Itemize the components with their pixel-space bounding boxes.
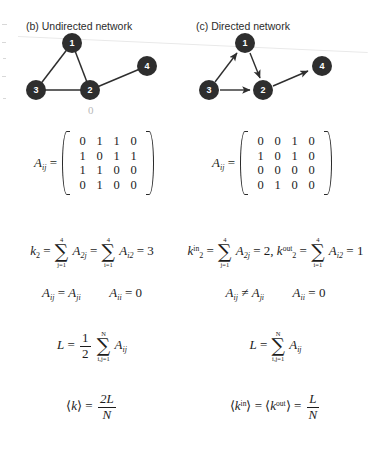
matrix-cell: 0 [286, 178, 303, 193]
undirected-degree-equation: k2 = 4 ∑ j=1 A2j = 4 ∑ i=1 Ai2 = 3 [0, 236, 184, 268]
matrix-cell: 1 [269, 178, 286, 193]
symm-left-sub: ij [50, 293, 54, 302]
avg-equals: = [85, 398, 92, 414]
angle-bracket-close-2: ⟩ [286, 398, 291, 414]
links-term: A [115, 337, 123, 353]
in-degree-eq2: = [253, 243, 260, 259]
matrix-right-bracket [146, 131, 154, 195]
sum-lower-limit: i=1 [102, 261, 115, 268]
summation-ij: N ∑ i,j=1 [97, 330, 110, 362]
fraction-denominator: N [98, 408, 116, 423]
links-term: A [289, 337, 297, 353]
matrix-cell: 1 [286, 134, 303, 149]
matrix-cell: 0 [74, 178, 91, 193]
fraction-numerator: L [307, 392, 320, 408]
matrix-cell: 1 [286, 149, 303, 164]
matrix-equals: = [228, 155, 235, 170]
avg-fraction: 2L N [98, 392, 116, 422]
directed-link-count-equation: L = N ∑ i,j=1 Aij [184, 330, 367, 362]
symm-right-A: A [252, 285, 260, 301]
out-degree-sub: 2 [292, 251, 296, 260]
summation-ij: N ∑ i,j=1 [271, 330, 284, 362]
matrix-cell: 1 [91, 178, 108, 193]
degree-term2: A [119, 243, 127, 259]
out-degree-value: 1 [357, 243, 364, 259]
matrix-cell: 0 [286, 163, 303, 178]
out-degree-term: A [329, 243, 337, 259]
matrix-label-A: A [34, 155, 42, 170]
matrix-cell: 0 [252, 178, 269, 193]
avg-kout-sup: out [276, 399, 286, 408]
matrix-cell: 0 [125, 163, 142, 178]
fraction-numerator: 2L [98, 392, 116, 408]
symm-right-sub: ji [260, 293, 264, 302]
matrix-grid: 0 1 1 0 1 0 1 1 1 1 0 0 0 1 0 0 [70, 131, 146, 195]
links-L: L [57, 337, 64, 353]
arrow-3-to-1 [215, 53, 237, 82]
arrow-1-to-2 [250, 53, 260, 78]
symm-relation: = [58, 285, 65, 301]
out-degree-term-sub: i2 [337, 251, 343, 260]
fraction-denominator: 2 [80, 347, 91, 362]
node-3-label: 3 [206, 85, 211, 95]
avg-eq2: = [294, 398, 301, 414]
sum-lower-limit: i=1 [311, 261, 324, 268]
selfloop-sub: ii [301, 293, 305, 302]
selfloop-value: 0 [319, 285, 326, 301]
symm-right-sub: ji [76, 293, 80, 302]
matrix-left-bracket [240, 131, 248, 195]
summation-j: 4 ∑ j=1 [218, 236, 231, 268]
degree-term2-sub: i2 [127, 251, 133, 260]
sigma-glyph: ∑ [271, 337, 284, 355]
sum-lower-limit: j=1 [55, 261, 68, 268]
degree-eq3: = [137, 243, 144, 259]
directed-asymmetry-equation: Aij ≠ Aji Aii = 0 [184, 285, 367, 302]
symm-left-A: A [42, 285, 50, 301]
degree-eq2: = [90, 243, 97, 259]
matrix-cell: 1 [74, 163, 91, 178]
in-degree-term-sub: 2j [244, 251, 250, 260]
summation-i: 4 ∑ i=1 [102, 236, 115, 268]
scan-artifact-mark [2, 24, 7, 25]
summation-j: 4 ∑ j=1 [55, 236, 68, 268]
selfloop-equals: = [308, 285, 315, 301]
matrix-label: Aij = [212, 155, 235, 172]
matrix-cell: 0 [91, 149, 108, 164]
links-equals: = [68, 337, 75, 353]
matrix-cell: 0 [303, 178, 320, 193]
matrix-cell: 0 [303, 149, 320, 164]
selfloop-value: 0 [136, 285, 143, 301]
matrix-label-sub: ij [220, 162, 224, 171]
degree-value: 3 [147, 243, 154, 259]
in-degree-sub: 2 [199, 251, 203, 260]
matrix-label-sub: ij [42, 162, 46, 171]
avg-fraction: L N [307, 392, 320, 422]
matrix-cell: 0 [108, 178, 125, 193]
degree-term1-sub: 2j [80, 251, 86, 260]
matrix-cell: 0 [125, 134, 142, 149]
matrix-label: Aij = [34, 155, 57, 172]
in-degree-eq1: = [207, 243, 214, 259]
scan-artifact-mark [2, 42, 6, 43]
selfloop-sub: ii [117, 293, 121, 302]
links-L: L [249, 337, 256, 353]
symm-left-sub: ij [234, 293, 238, 302]
sigma-glyph: ∑ [218, 243, 231, 261]
matrix-cell: 0 [74, 134, 91, 149]
matrix-grid: 0 0 1 0 1 0 1 0 0 0 0 0 0 1 0 0 [248, 131, 324, 195]
matrix-cell: 1 [108, 134, 125, 149]
sigma-glyph: ∑ [311, 243, 324, 261]
avg-eq1: = [255, 398, 262, 414]
selfloop-A: A [109, 285, 117, 301]
in-degree-term: A [236, 243, 244, 259]
undirected-link-count-equation: L = 1 2 N ∑ i,j=1 Aij [0, 330, 184, 362]
undirected-adjacency-matrix: Aij = 0 1 1 0 1 0 1 1 1 1 0 0 0 1 0 0 [34, 131, 154, 195]
scan-artifact-mark [3, 58, 6, 59]
sigma-glyph: ∑ [102, 243, 115, 261]
symm-left-A: A [226, 285, 234, 301]
scan-artifact-mark [3, 98, 6, 99]
matrix-left-bracket [62, 131, 70, 195]
node-2-label: 2 [87, 85, 92, 95]
directed-adjacency-matrix: Aij = 0 0 1 0 1 0 1 0 0 0 0 0 0 1 0 0 [212, 131, 332, 195]
